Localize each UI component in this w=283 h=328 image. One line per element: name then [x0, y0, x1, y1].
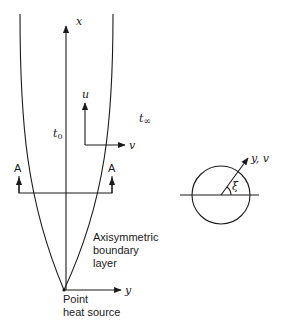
point-heat-source-dot: [62, 288, 65, 291]
t0-label: t0: [53, 127, 63, 141]
section-a-right-label: A: [108, 162, 116, 174]
y-axis-label: y: [124, 284, 132, 297]
angle-arc: [227, 187, 231, 195]
u-velocity-label: u: [82, 88, 89, 101]
plume-diagram: x y u v t0 t∞ A A Axisymmetric boundary …: [0, 0, 283, 328]
t-infinity-label: t∞: [139, 112, 151, 126]
boundary-layer-label: Axisymmetric boundary layer: [93, 231, 161, 269]
angle-xi-label: ξ: [232, 180, 239, 193]
section-a-left-label: A: [14, 162, 22, 174]
boundary-layer-left-edge: [20, 14, 64, 290]
section-view-axis-label: y, v: [250, 152, 270, 165]
v-velocity-label: v: [129, 139, 136, 152]
point-heat-source-label: Point heat source: [63, 293, 120, 318]
x-axis-label: x: [76, 15, 83, 28]
